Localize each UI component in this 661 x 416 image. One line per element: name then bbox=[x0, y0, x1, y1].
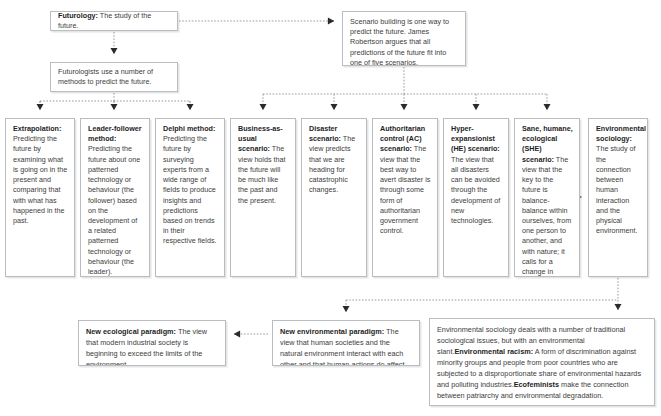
diagram-canvas: Futurology: The study of the future. Sce… bbox=[0, 0, 661, 416]
node-environmental-sociology-term: Environmental sociology: bbox=[596, 124, 646, 143]
node-scenario-building-text: Scenario building is one way to predict … bbox=[350, 17, 449, 66]
node-leader-follower-text: Predicting the future about one patterne… bbox=[88, 144, 140, 276]
node-authoritarian-control-text: The view that the best way to avert disa… bbox=[380, 144, 430, 235]
node-new-environmental-paradigm-term: New environmental paradigm: bbox=[280, 327, 384, 336]
node-new-ecological-paradigm[interactable]: New ecological paradigm: The view that m… bbox=[78, 320, 226, 366]
node-futurologists-text: Futurologists use a number of methods to… bbox=[58, 67, 153, 86]
node-futurologists[interactable]: Futurologists use a number of methods to… bbox=[50, 62, 178, 92]
node-scenario-building[interactable]: Scenario building is one way to predict … bbox=[342, 11, 466, 66]
envsoc-detail-term2: Environmental racism: bbox=[454, 347, 533, 356]
node-environmental-sociology-detail[interactable]: Environmental sociology deals with a num… bbox=[429, 318, 655, 406]
node-new-environmental-paradigm[interactable]: New environmental paradigm: The view tha… bbox=[272, 320, 420, 366]
node-hyper-expansionist-scenario[interactable]: Hyper-expansionist (HE) scenario: The vi… bbox=[443, 118, 509, 277]
node-business-as-usual-text: The view holds that the future will be m… bbox=[238, 144, 286, 204]
node-disaster-term: Disaster scenario: bbox=[309, 124, 341, 143]
node-environmental-sociology-text: The study of the connection between huma… bbox=[596, 144, 638, 235]
node-delphi-text: Predicting the future by surveying exper… bbox=[163, 134, 217, 245]
node-hyper-expansionist-text: The view that all disasters can be avoid… bbox=[451, 155, 500, 225]
node-extrapolation[interactable]: Extrapolation: Predicting the future by … bbox=[5, 118, 75, 277]
edge-futurologists-bus bbox=[40, 93, 190, 110]
node-extrapolation-text: Predicting the future by examining what … bbox=[13, 134, 67, 225]
node-sane-humane-ecological-scenario[interactable]: Sane, humane, ecological (SHE) scenario:… bbox=[514, 118, 580, 277]
edge-scenario-bus bbox=[263, 67, 547, 94]
node-business-as-usual-scenario[interactable]: Business-as-usual scenario: The view hol… bbox=[230, 118, 296, 277]
node-authoritarian-control-scenario[interactable]: Authoritarian control (AC) scenario: The… bbox=[372, 118, 438, 277]
node-disaster-scenario[interactable]: Disaster scenario: The view predicts tha… bbox=[301, 118, 367, 277]
node-leader-follower-term: Leader-follower method: bbox=[88, 124, 142, 143]
node-sane-humane-ecological-text: The view that the key to the future is b… bbox=[522, 155, 571, 277]
node-disaster-text: The view predicts that we are heading fo… bbox=[309, 134, 355, 194]
node-futurology[interactable]: Futurology: The study of the future. bbox=[50, 11, 178, 31]
node-leader-follower[interactable]: Leader-follower method: Predicting the f… bbox=[80, 118, 150, 277]
node-hyper-expansionist-term: Hyper-expansionist (HE) scenario: bbox=[451, 124, 500, 153]
node-environmental-sociology[interactable]: Environmental sociology: The study of th… bbox=[588, 118, 648, 277]
envsoc-detail-term3: Ecofeminists bbox=[514, 380, 559, 389]
node-delphi-method[interactable]: Delphi method: Predicting the future by … bbox=[155, 118, 225, 277]
node-new-ecological-paradigm-term: New ecological paradigm: bbox=[86, 327, 176, 336]
node-delphi-term: Delphi method: bbox=[163, 124, 215, 133]
node-futurology-term: Futurology: bbox=[58, 11, 98, 20]
node-extrapolation-term: Extrapolation: bbox=[13, 124, 61, 133]
